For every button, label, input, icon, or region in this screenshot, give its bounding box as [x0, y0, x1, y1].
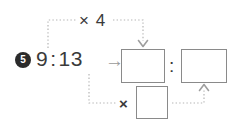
- ratio-worksheet-problem: 5 9:13 → × 4 × :: [0, 0, 236, 135]
- ratio-left-term: 9: [36, 47, 48, 70]
- top-multiplier-label: × 4: [79, 11, 106, 31]
- right-dotted-connector: [172, 85, 209, 104]
- bottom-dotted-connector: [89, 74, 116, 103]
- ratio-right-term: 13: [59, 47, 83, 70]
- result-ratio-colon: :: [169, 51, 174, 81]
- source-ratio: 9:13: [36, 47, 83, 71]
- ratio-colon: :: [48, 47, 58, 70]
- bottom-multiplication-sign: ×: [119, 95, 128, 112]
- arrowhead-up-icon: [200, 85, 209, 91]
- problem-number-badge: 5: [15, 52, 31, 68]
- denominator-answer-box[interactable]: [181, 49, 227, 83]
- numerator-answer-box[interactable]: [121, 49, 165, 83]
- multiplier-answer-box[interactable]: [136, 86, 168, 119]
- arrowhead-down-icon: [139, 41, 148, 47]
